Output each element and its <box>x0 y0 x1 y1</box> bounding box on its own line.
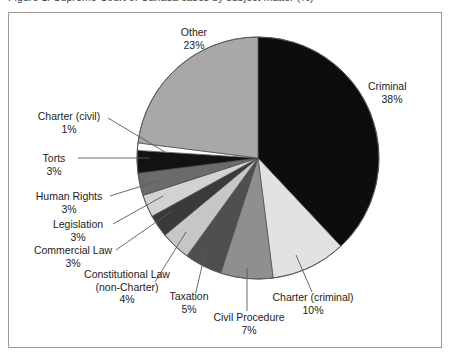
pie-slice <box>138 37 258 158</box>
label-torts-value: 3% <box>33 165 75 178</box>
label-charter-civil-value: 1% <box>31 123 107 136</box>
label-criminal: Criminal 38% <box>368 80 416 105</box>
label-human-rights: Human Rights 3% <box>30 190 108 215</box>
label-legislation: Legislation 3% <box>44 218 112 243</box>
pie-svg <box>0 0 451 363</box>
pie-slices-group <box>137 37 379 279</box>
label-civil-procedure-value: 7% <box>207 324 291 337</box>
label-legislation-name: Legislation <box>53 218 103 230</box>
label-charter-civil-name: Charter (civil) <box>38 110 100 122</box>
label-civil-procedure-name: Civil Procedure <box>213 311 284 323</box>
label-torts-name: Torts <box>43 152 66 164</box>
label-commercial-law: Commercial Law 3% <box>30 244 116 269</box>
label-charter-criminal-name: Charter (criminal) <box>272 291 353 303</box>
label-human-rights-name: Human Rights <box>36 190 103 202</box>
label-criminal-value: 38% <box>368 93 416 106</box>
label-human-rights-value: 3% <box>30 203 108 216</box>
label-torts: Torts 3% <box>33 152 75 177</box>
chart-screenshot: Figure 1: Supreme Court of Canada cases … <box>0 0 451 363</box>
label-commercial-law-name: Commercial Law <box>34 244 112 256</box>
label-constitutional-law-name: Constitutional Law <box>84 268 170 280</box>
label-commercial-law-value: 3% <box>30 257 116 270</box>
label-other-name: Other <box>181 26 207 38</box>
label-other: Other 23% <box>158 26 230 51</box>
label-other-value: 23% <box>158 39 230 52</box>
label-constitutional-law-value: 4% <box>73 293 181 306</box>
label-charter-civil: Charter (civil) 1% <box>31 110 107 135</box>
label-civil-procedure: Civil Procedure 7% <box>207 311 291 336</box>
label-legislation-value: 3% <box>44 231 112 244</box>
label-constitutional-law-name2: (non-Charter) <box>73 281 181 294</box>
label-criminal-name: Criminal <box>368 80 407 92</box>
label-constitutional-law: Constitutional Law (non-Charter) 4% <box>73 268 181 306</box>
pie-chart-plot <box>0 0 451 363</box>
